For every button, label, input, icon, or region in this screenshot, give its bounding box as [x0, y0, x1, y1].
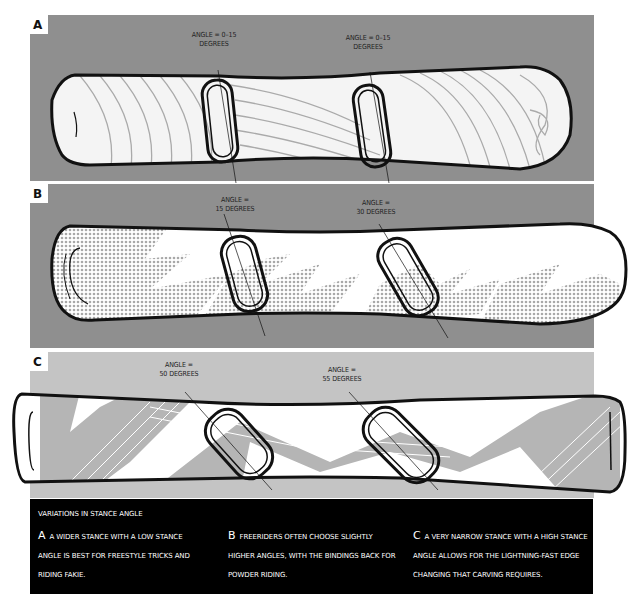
angle-label-c-rear: ANGLE = 55 DEGREES	[302, 366, 382, 384]
caption-text-c: A VERY NARROW STANCE WITH A HIGH STANCE …	[413, 533, 588, 579]
panel-label-b: B	[30, 184, 48, 203]
snowboard-a-illustration	[0, 15, 636, 181]
panel-b: B ANGLE = 15 DEGREES ANGLE = 30 DEGREES	[30, 184, 594, 348]
panel-label-a: A	[30, 15, 48, 34]
caption-text-b: FREERIDERS OFTEN CHOOSE SLIGHTLY HIGHER …	[228, 533, 396, 579]
caption-column-c: CA VERY NARROW STANCE WITH A HIGH STANCE…	[413, 526, 591, 585]
caption-text-a: A WIDER STANCE WITH A LOW STANCE ANGLE I…	[38, 533, 190, 579]
caption-title: VARIATIONS IN STANCE ANGLE	[38, 510, 143, 518]
angle-label-b-rear: ANGLE = 30 DEGREES	[336, 199, 416, 217]
panel-a: A ANGLE = 0–15 DEGREES ANGLE = 0–15 DEGR…	[30, 15, 594, 181]
angle-label-b-front: ANGLE = 15 DEGREES	[195, 196, 275, 214]
caption-box: VARIATIONS IN STANCE ANGLE AA WIDER STAN…	[30, 499, 593, 594]
angle-label-a-front: ANGLE = 0–15 DEGREES	[174, 31, 254, 49]
caption-letter-c: C	[413, 529, 421, 542]
snowboard-b-illustration	[0, 184, 636, 348]
caption-letter-a: A	[38, 529, 45, 542]
caption-letter-b: B	[228, 529, 235, 542]
panel-label-c: C	[30, 352, 48, 371]
angle-label-c-front: ANGLE = 50 DEGREES	[139, 361, 219, 379]
panel-c: C ANGLE = 50 DEGREES ANGLE = 55 DEGREES	[30, 352, 594, 498]
caption-column-b: BFREERIDERS OFTEN CHOOSE SLIGHTLY HIGHER…	[228, 526, 398, 585]
angle-label-a-rear: ANGLE = 0–15 DEGREES	[328, 34, 408, 52]
caption-column-a: AA WIDER STANCE WITH A LOW STANCE ANGLE …	[38, 526, 198, 585]
